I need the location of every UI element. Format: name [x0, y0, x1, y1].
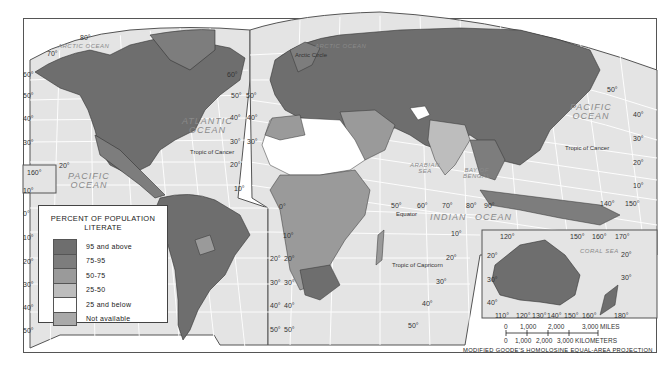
lat-label: 20° — [230, 161, 241, 168]
lat-label: 50° — [270, 326, 281, 333]
equator-label: Equator — [396, 211, 417, 217]
projection-label: MODIFIED GOODE'S HOMOLOSINE EQUAL-AREA P… — [463, 347, 653, 353]
legend-swatch — [53, 297, 77, 312]
lat-label: 30° — [270, 279, 281, 286]
tropic-of-capricorn-label: Tropic of Capricorn — [392, 262, 443, 268]
lon-label: 120° — [500, 233, 514, 240]
lat-label: 0° — [279, 203, 286, 210]
lat-label: 20° — [284, 255, 295, 262]
legend-swatch — [53, 268, 77, 283]
ocean-label-arabian-2: SEA — [410, 168, 440, 174]
lat-label: 50° — [408, 322, 419, 329]
lat-label: 30° — [284, 279, 295, 286]
lat-label: 10° — [283, 232, 294, 239]
lat-label: 30° — [23, 139, 34, 146]
lon-label: 180° — [614, 312, 628, 319]
legend-label: 50-75 — [86, 272, 105, 279]
lon-label: 90° — [484, 202, 495, 209]
legend-label: 95 and above — [86, 243, 132, 250]
lat-label: 50° — [284, 326, 295, 333]
lon-label: 170° — [615, 233, 629, 240]
lon-label: 140° — [547, 312, 561, 319]
lat-label: 50° — [246, 92, 257, 99]
arctic-circle-label: Arctic Circle — [295, 52, 327, 58]
lon-label: 60° — [417, 202, 428, 209]
ocean-label-arabian-sea: ARABIANSEA — [410, 162, 440, 175]
lon-label: 130° — [532, 312, 546, 319]
scale-km-3000: 3,000 KILOMETERS — [557, 338, 617, 345]
legend-swatch — [53, 239, 77, 254]
lat-label: 10° — [23, 234, 34, 241]
lon-label: 140° — [600, 200, 614, 207]
lat-label: 20° — [446, 254, 457, 261]
scale-km-1000: 1,000 — [515, 338, 531, 345]
scale-miles-3000: 3,000 MILES — [582, 324, 620, 331]
lat-label: 10° — [234, 185, 245, 192]
lat-label: 40° — [422, 300, 433, 307]
legend-label: 75-95 — [86, 257, 105, 264]
lat-label: 40° — [284, 302, 295, 309]
lon-label: 110° — [495, 312, 509, 319]
lon-label: 150° — [570, 233, 584, 240]
legend-label: Not available — [86, 315, 130, 322]
lon-label: 150° — [564, 312, 578, 319]
lat-label: 50° — [23, 92, 34, 99]
lat-label: 30° — [23, 281, 34, 288]
lat-label: 50° — [231, 92, 242, 99]
tropic-of-cancer-atlantic-label: Tropic of Cancer — [190, 149, 234, 155]
lat-label: 40° — [487, 299, 498, 306]
scale-miles-2000: 2,000 — [548, 324, 564, 331]
lat-label: 40° — [23, 115, 34, 122]
scale-miles-1000: 1,000 — [520, 324, 536, 331]
lat-label: 10° — [23, 187, 34, 194]
lon-label: 150° — [625, 200, 639, 207]
ocean-label-arctic-left: ARCTIC OCEAN — [58, 43, 109, 49]
legend-swatch — [53, 312, 77, 327]
lat-label: 30° — [633, 135, 644, 142]
lat-label: 50° — [23, 327, 34, 334]
legend-item: 75-95 — [53, 254, 132, 269]
lat-label: 20° — [23, 258, 34, 265]
ocean-label-indian-ocean: OCEAN — [475, 213, 512, 222]
ocean-label-pacific-right: PACIFICOCEAN — [570, 103, 612, 122]
lat-label: 10° — [451, 230, 462, 237]
lat-label: 20° — [270, 255, 281, 262]
legend-item: Not available — [53, 312, 132, 327]
lat-label: 20° — [59, 162, 70, 169]
legend-swatch — [53, 254, 77, 269]
lat-label: 10° — [633, 182, 644, 189]
lat-label: 70° — [47, 50, 58, 57]
lat-label: 30° — [247, 138, 258, 145]
ocean-label-pacific-right-2: OCEAN — [570, 112, 612, 121]
legend-items: 95 and above 75-95 50-75 25-50 25 and be… — [53, 239, 132, 326]
legend-item: 25-50 — [53, 283, 132, 298]
lon-label: 160° — [582, 312, 596, 319]
tropic-of-cancer-pacific-label: Tropic of Cancer — [565, 145, 609, 151]
ocean-label-coral-sea: CORAL SEA — [580, 248, 619, 254]
lat-label: 30° — [487, 276, 498, 283]
legend-item: 25 and below — [53, 297, 132, 312]
lon-label: 70° — [442, 202, 453, 209]
scale-km-2000: 2,000 — [536, 338, 552, 345]
lon-label: 160° — [592, 233, 606, 240]
legend-title-line1: PERCENT OF POPULATION — [39, 214, 167, 223]
lat-label: 30° — [230, 138, 241, 145]
lat-label: 40° — [247, 114, 258, 121]
legend-label: 25-50 — [86, 286, 105, 293]
ocean-label-bengal-2: BENGAL — [463, 173, 490, 179]
legend-title: PERCENT OF POPULATION LITERATE — [39, 214, 167, 233]
legend-swatch — [53, 283, 77, 298]
legend-label: 25 and below — [86, 301, 131, 308]
ocean-label-pacific-left-2: OCEAN — [68, 181, 110, 190]
lon-label: 120° — [516, 312, 530, 319]
lat-label: 20° — [487, 252, 498, 259]
lat-label: 40° — [23, 304, 34, 311]
lat-label: 40° — [230, 114, 241, 121]
lat-label: 60° — [227, 71, 238, 78]
lat-label: 50° — [607, 86, 618, 93]
lat-label: 40° — [633, 111, 644, 118]
ocean-label-indian: INDIAN — [430, 213, 467, 222]
legend-item: 50-75 — [53, 268, 132, 283]
ocean-label-arctic-right: ARCTIC OCEAN — [315, 43, 366, 49]
lat-label: 40° — [270, 302, 281, 309]
